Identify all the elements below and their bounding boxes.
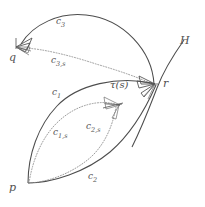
- diagram-svg: [0, 0, 205, 207]
- point-label-q: q: [9, 52, 16, 63]
- tangent-label-tau: τ(s): [110, 80, 128, 90]
- curve-c3-path: [21, 15, 154, 84]
- curve-label-c1s-sub: 1,s: [58, 132, 68, 140]
- curve-label-H: H: [180, 35, 190, 46]
- curve-label-c3s: c3,s: [51, 56, 66, 67]
- curve-c1s-path: [29, 103, 115, 183]
- curve-label-c2s-sub: 2,s: [91, 126, 101, 134]
- curve-label-c3s-sub: 3,s: [56, 60, 66, 68]
- curve-H-path: [132, 40, 184, 147]
- curve-label-c3-sub: 3: [61, 21, 65, 29]
- arrowhead-group-q: [16, 38, 32, 55]
- curve-label-c3: c3: [56, 17, 65, 28]
- curve-label-c2s: c2,s: [86, 122, 101, 133]
- curve-c3s-path: [25, 48, 152, 84]
- curve-label-c1-sub: 1: [57, 92, 61, 100]
- point-label-r: r: [163, 78, 168, 89]
- curve-label-c2: c2: [88, 172, 97, 183]
- curve-c2s-path: [29, 107, 116, 183]
- curve-label-c1s: c1,s: [53, 128, 68, 139]
- arrowhead-group-tau: [104, 97, 122, 119]
- curve-label-c1: c1: [52, 88, 61, 99]
- point-label-p: p: [9, 182, 16, 193]
- figure-canvas: q p r H τ(s) c3 c3,s c1 c1,s c2,s c2: [0, 0, 205, 207]
- curve-label-c2-sub: 2: [93, 176, 97, 184]
